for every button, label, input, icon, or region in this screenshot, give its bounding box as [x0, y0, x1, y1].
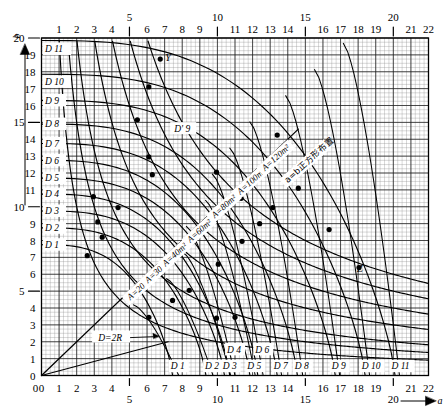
marker-area-10: [327, 227, 332, 232]
left-curve-label-D6: D 6: [44, 156, 59, 166]
origin-label-bottom: 0: [33, 382, 39, 394]
bottom-curve-label-D1: D 1: [170, 361, 185, 371]
marker-area-2: [187, 288, 192, 293]
x-top-tick-label-11: 11: [230, 23, 241, 35]
marker-D7: [150, 172, 155, 177]
y-major-tick-label-15: 15: [14, 116, 26, 128]
marker-area-4: [232, 315, 237, 320]
x-top-tick-label-7: 7: [162, 23, 168, 35]
left-curve-label-D8: D 8: [44, 119, 59, 129]
y-tick-label-2: 2: [30, 336, 36, 348]
bottom-curve-label-D2: D 2: [204, 361, 219, 371]
marker-D8: [135, 117, 140, 122]
y-axis-name: b: [11, 34, 22, 39]
y-tick-label-0: 0: [30, 370, 36, 382]
left-curve-label-D9: D 9: [44, 96, 59, 106]
left-curve-label-D2: D 2: [44, 223, 59, 233]
x-top-tick-label-21: 21: [405, 23, 416, 35]
x-tick-label-2: 2: [74, 382, 80, 394]
x-major-tick-label-5: 5: [127, 393, 133, 405]
x-tick-label-0: 0: [39, 382, 45, 394]
y-tick-label-16: 16: [25, 100, 37, 112]
nomograph-figure: 0123467891112131416171819212251015201234…: [0, 0, 445, 420]
left-curve-label-D10: D 10: [44, 77, 64, 87]
bottom-curve-label-D10: D 10: [361, 361, 381, 371]
left-curve-label-D1: D 1: [44, 240, 59, 250]
x-axis-name: a: [438, 395, 443, 406]
y-tick-label-1: 1: [30, 353, 36, 365]
bottom-curve-label-D11: D 11: [391, 361, 410, 371]
bottom-curve-label-D8: D 8: [294, 361, 309, 371]
x-top-tick-label-18: 18: [353, 23, 365, 35]
x-tick-label-6: 6: [144, 382, 150, 394]
x-tick-label-16: 16: [317, 382, 329, 394]
y-tick-label-7: 7: [30, 251, 36, 263]
x-tick-label-8: 8: [179, 382, 185, 394]
x-top-tick-label-22: 22: [423, 23, 434, 35]
y-tick-label-14: 14: [25, 133, 37, 145]
point-Z: Z: [357, 263, 363, 274]
x-tick-label-1: 1: [56, 382, 62, 394]
x-top-tick-label-12: 12: [247, 23, 258, 35]
x-top-major-tick-label-10: 10: [212, 11, 224, 23]
x-top-tick-label-6: 6: [144, 23, 150, 35]
marker-area-13: [214, 170, 219, 175]
grid-major: [42, 38, 429, 376]
y-tick-label-9: 9: [30, 218, 36, 230]
bottom-curve-label-D6: D 6: [254, 345, 269, 355]
marker-D4: [91, 194, 96, 199]
x-tick-label-18: 18: [353, 382, 365, 394]
marker-D9: [146, 84, 151, 89]
x-tick-label-11: 11: [230, 382, 241, 394]
chart-canvas: 0123467891112131416171819212251015201234…: [0, 0, 445, 420]
x-top-tick-label-2: 2: [74, 23, 80, 35]
x-top-major-tick-label-15: 15: [300, 11, 312, 23]
x-top-tick-label-19: 19: [370, 23, 382, 35]
curve-label-dprime-9: D' 9: [173, 124, 190, 134]
x-top-major-tick-label-5: 5: [127, 11, 133, 23]
x-top-tick-label-8: 8: [179, 23, 185, 35]
x-tick-label-3: 3: [92, 382, 98, 394]
marker-area-12: [275, 132, 280, 137]
left-curve-label-D11: D 11: [44, 44, 63, 54]
bottom-curve-label-D5: D 5: [246, 361, 261, 371]
x-top-tick-label-1: 1: [56, 23, 62, 35]
marker-D10: [158, 56, 163, 61]
bottom-curve-label-D9: D 9: [331, 361, 346, 371]
marker-area-7: [257, 221, 262, 226]
x-tick-label-19: 19: [370, 382, 382, 394]
left-curve-label-D4: D 4: [44, 189, 59, 199]
x-tick-label-7: 7: [162, 382, 168, 394]
bottom-curve-label-D7: D 7: [273, 361, 289, 371]
x-tick-label-4: 4: [109, 382, 115, 394]
x-major-tick-label-15: 15: [300, 393, 312, 405]
x-tick-label-17: 17: [335, 382, 347, 394]
x-tick-label-14: 14: [282, 382, 294, 394]
grid-major-lines: [42, 38, 429, 376]
x-top-tick-label-4: 4: [109, 23, 115, 35]
y-tick-label-17: 17: [25, 83, 37, 95]
marker-D2: [100, 235, 105, 240]
x-tick-label-12: 12: [247, 382, 258, 394]
x-top-tick-label-13: 13: [265, 23, 277, 35]
x-top-tick-label-9: 9: [197, 23, 203, 35]
bottom-curve-label-D3: D 3: [222, 361, 237, 371]
y-tick-label-12: 12: [25, 167, 36, 179]
y-major-tick-label-5: 5: [19, 285, 25, 297]
marker-area-0: [146, 315, 151, 320]
y-tick-label-18: 18: [25, 66, 37, 78]
left-curve-label-D3: D 3: [44, 206, 59, 216]
marker-area-5: [216, 262, 221, 267]
y-tick-label-6: 6: [30, 268, 36, 280]
x-major-tick-label-10: 10: [212, 393, 224, 405]
y-tick-label-4: 4: [30, 302, 36, 314]
marker-area-1: [170, 298, 175, 303]
marker-area-6: [239, 239, 244, 244]
left-curve-label-D5: D 5: [44, 173, 59, 183]
y-tick-label-3: 3: [30, 319, 36, 331]
x-top-tick-label-16: 16: [317, 23, 329, 35]
x-top-tick-label-3: 3: [92, 23, 98, 35]
x-major-tick-label-20: 20: [388, 393, 400, 405]
x-tick-label-13: 13: [265, 382, 277, 394]
marker-D1: [85, 253, 90, 258]
